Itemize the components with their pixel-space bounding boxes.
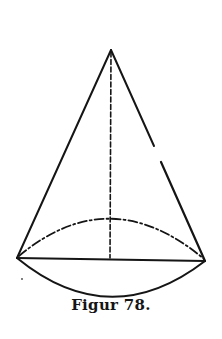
cone-left-edge: [17, 50, 111, 258]
base-diameter: [17, 258, 205, 261]
cone-right-edge-lower: [161, 162, 205, 261]
base-ellipse-back-hidden: [19, 219, 204, 259]
base-ellipse-front: [17, 258, 205, 297]
cone-height-dashed: [110, 52, 111, 258]
speck: [21, 278, 23, 280]
cone-diagram: [0, 0, 222, 339]
figure-caption: Figur 78.: [0, 296, 222, 314]
cone-right-edge-upper: [111, 50, 154, 146]
